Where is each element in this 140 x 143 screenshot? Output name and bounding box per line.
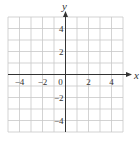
x-tick-label: 4 bbox=[109, 77, 114, 87]
x-tick-label: 2 bbox=[86, 77, 91, 87]
y-tick-label: −4 bbox=[54, 116, 64, 126]
y-axis-label: y bbox=[61, 0, 67, 12]
x-tick-label: −2 bbox=[38, 77, 48, 87]
x-tick-label: 0 bbox=[58, 77, 63, 87]
x-axis-arrow-icon bbox=[126, 72, 132, 77]
y-tick-label: −2 bbox=[54, 93, 64, 103]
x-axis-label: x bbox=[133, 69, 139, 81]
axes bbox=[8, 11, 132, 132]
x-tick-label: −4 bbox=[15, 77, 25, 87]
y-tick-label: 4 bbox=[59, 24, 64, 34]
coordinate-plane: −4−202442−2−4 x y bbox=[0, 0, 140, 143]
y-tick-label: 2 bbox=[59, 47, 64, 57]
